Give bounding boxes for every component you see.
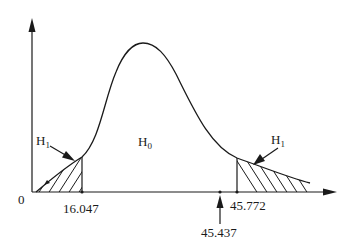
test-statistic-value: 45.437	[201, 225, 237, 240]
left-tail-label: H1	[36, 133, 50, 150]
right-tail-label: H1	[271, 132, 285, 149]
distribution-diagram: 0 H1 H0 H1 16.047 45.772 45.437	[0, 0, 349, 249]
center-region-label: H0	[138, 134, 152, 151]
pointer-arrow-icon	[62, 151, 75, 161]
density-curve	[36, 43, 310, 192]
x-axis-arrow-icon	[323, 189, 337, 196]
pointer-arrow-icon	[253, 154, 265, 165]
left-critical-value: 16.047	[63, 201, 99, 216]
left-label-pointer	[50, 146, 75, 161]
y-axis	[29, 18, 36, 192]
statistic-arrow	[217, 195, 224, 224]
origin-label: 0	[18, 192, 25, 207]
statistic-tick	[218, 190, 221, 193]
x-axis	[32, 189, 337, 196]
right-label-pointer	[253, 148, 278, 165]
y-axis-arrow-icon	[29, 18, 36, 32]
right-critical-tick	[235, 190, 238, 193]
left-critical-tick	[80, 190, 83, 193]
up-arrow-icon	[217, 195, 224, 208]
right-critical-value: 45.772	[230, 198, 266, 213]
